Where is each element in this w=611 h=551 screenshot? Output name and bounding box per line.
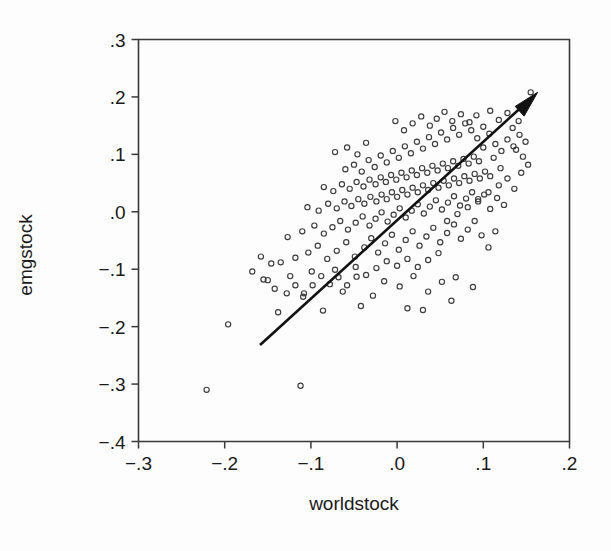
y-tick-label: −.4: [99, 432, 126, 453]
data-point: [446, 183, 451, 188]
data-point: [516, 118, 521, 123]
data-point: [440, 161, 445, 166]
x-tick-label: .1: [475, 453, 491, 474]
data-point: [345, 227, 350, 232]
data-point: [401, 128, 406, 133]
data-point: [493, 141, 498, 146]
data-point: [417, 243, 422, 248]
data-point: [426, 135, 431, 140]
data-point: [204, 387, 209, 392]
data-point: [384, 259, 389, 264]
data-point: [389, 190, 394, 195]
data-point: [430, 163, 435, 168]
trend-arrow-head: [515, 92, 537, 116]
data-point: [438, 240, 443, 245]
data-point: [420, 166, 425, 171]
data-point: [415, 190, 420, 195]
data-point: [285, 234, 290, 239]
data-point: [378, 175, 383, 180]
data-point: [431, 225, 436, 230]
data-point: [433, 198, 438, 203]
data-point: [445, 166, 450, 171]
data-point: [367, 223, 372, 228]
y-tick-label: .1: [110, 144, 126, 165]
data-point: [410, 121, 415, 126]
data-point: [309, 269, 314, 274]
data-point: [276, 310, 281, 315]
data-point: [466, 161, 471, 166]
data-point: [472, 218, 477, 223]
data-point: [415, 264, 420, 269]
data-point: [347, 186, 352, 191]
data-point: [477, 176, 482, 181]
data-point: [393, 118, 398, 123]
data-point: [354, 179, 359, 184]
data-point: [258, 254, 263, 259]
data-point: [288, 274, 293, 279]
data-point: [414, 139, 419, 144]
data-point: [359, 169, 364, 174]
data-point: [463, 196, 468, 201]
data-point: [526, 162, 531, 167]
data-point: [445, 200, 450, 205]
data-point: [427, 204, 432, 209]
data-point: [451, 222, 456, 227]
data-point: [334, 248, 339, 253]
data-point: [486, 245, 491, 250]
data-point: [355, 152, 360, 157]
data-point: [349, 203, 354, 208]
scatter-points: [204, 90, 533, 393]
data-point: [396, 247, 401, 252]
data-point: [315, 243, 320, 248]
data-point: [419, 114, 424, 119]
data-point: [402, 144, 407, 149]
x-tick-label: −.2: [211, 453, 238, 474]
x-tick-label: .0: [389, 453, 405, 474]
data-point: [496, 183, 501, 188]
data-point: [250, 269, 255, 274]
data-point: [298, 383, 303, 388]
data-point: [382, 241, 387, 246]
data-point: [481, 145, 486, 150]
data-point: [301, 291, 306, 296]
data-point: [505, 137, 510, 142]
data-point: [353, 264, 358, 269]
data-point: [278, 260, 283, 265]
data-point: [368, 194, 373, 199]
data-point: [451, 176, 456, 181]
data-point: [486, 190, 491, 195]
data-point: [385, 219, 390, 224]
plot-border: [139, 40, 570, 442]
data-point: [493, 229, 498, 234]
data-point: [410, 185, 415, 190]
data-point: [457, 203, 462, 208]
data-point: [421, 211, 426, 216]
data-point: [312, 223, 317, 228]
data-point: [453, 275, 458, 280]
data-point: [390, 148, 395, 153]
data-point: [405, 306, 410, 311]
data-point: [325, 256, 330, 261]
data-point: [373, 182, 378, 187]
data-point: [439, 279, 444, 284]
data-point: [382, 279, 387, 284]
data-point: [482, 169, 487, 174]
data-point: [488, 206, 493, 211]
scatter-plot-figure: −.4−.3−.2−.1.0.1.2.3 −.3−.2−.1.0.1.2 wor…: [0, 0, 611, 551]
data-point: [405, 256, 410, 261]
data-point: [450, 118, 455, 123]
data-point: [300, 229, 305, 234]
data-point: [475, 136, 480, 141]
data-point: [474, 113, 479, 118]
x-tick-label: .2: [562, 453, 578, 474]
data-point: [426, 257, 431, 262]
data-point: [457, 180, 462, 185]
x-tick-label: −.3: [125, 453, 152, 474]
data-point: [425, 170, 430, 175]
data-point: [445, 230, 450, 235]
data-point: [372, 164, 377, 169]
data-point: [424, 234, 429, 239]
x-tick-label: −.1: [297, 453, 324, 474]
data-point: [321, 231, 326, 236]
data-point: [340, 289, 345, 294]
